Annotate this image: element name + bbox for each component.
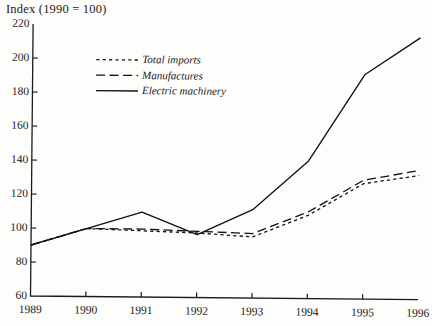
legend-label-electric-machinery: Electric machinery — [142, 85, 226, 97]
chart-canvas — [0, 0, 426, 326]
data-series-group — [31, 34, 421, 249]
legend-label-total-imports: Total imports — [142, 54, 201, 66]
series-line-electric-machinery — [31, 34, 421, 249]
chart-plot-area: 6080100120140160180200220 19891990199119… — [0, 0, 426, 326]
series-line-manufactures — [31, 167, 419, 249]
series-line-total-imports — [31, 172, 419, 249]
legend-sample-lines — [96, 60, 138, 91]
axis-lines — [30, 24, 420, 300]
legend-label-manufactures: Manufactures — [142, 70, 203, 82]
